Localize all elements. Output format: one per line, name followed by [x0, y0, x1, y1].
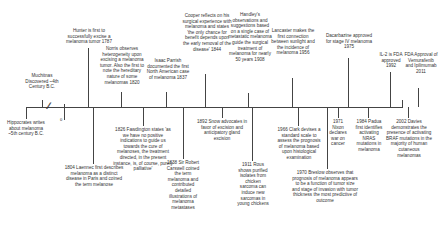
event-stem-norris — [121, 92, 122, 107]
event-label-lancaster: Lancaster makes the first connection bet… — [270, 28, 316, 56]
event-label-muchitnas: Muchitnas Discovered ~4th Century B.C. — [22, 73, 62, 90]
event-label-davies: 2002 Davies demonstrates the presence of… — [386, 119, 432, 158]
zero-label: 0 — [60, 117, 62, 122]
event-label-clark: 1966 Clark devises a standard scale to a… — [276, 127, 322, 161]
timeline-axis-main — [63, 107, 403, 108]
event-label-il2: IL-2 is FDA approved 1992 — [376, 52, 406, 69]
event-stem-lancaster — [292, 78, 293, 107]
event-label-padua: 1984 Padua first identifies activating N… — [355, 119, 383, 153]
event-stem-handley — [248, 93, 249, 107]
event-label-fda2011: FDA Approval of Vemurafenib and Ipilimum… — [404, 52, 438, 74]
event-label-snow: 1892 Snow advocates in favor of excision… — [196, 119, 248, 141]
event-stem-cooper — [205, 74, 206, 107]
event-stem-muchitnas — [42, 100, 43, 107]
event-stem-davies — [408, 107, 409, 118]
event-label-parrish: Isaac Parrish documented the first North… — [146, 58, 190, 80]
event-stem-hippocrates — [26, 107, 27, 119]
zero-tick — [64, 104, 65, 120]
event-label-breslow: 1970 Breslow observes that prognosis of … — [292, 170, 358, 204]
event-stem-nixon — [338, 107, 339, 118]
event-stem-hunter — [88, 48, 89, 107]
event-label-dacarbazine: Dacarbazine approved for stage IV melano… — [324, 33, 374, 50]
event-label-fawdington: 1826 Fawdington states 'as we have no po… — [112, 127, 174, 172]
event-stem-parrish — [166, 92, 167, 107]
event-stem-fda2011 — [418, 88, 419, 107]
event-stem-snow — [222, 107, 223, 118]
event-label-nixon: 1971 Nixon declares war on cancer — [328, 119, 348, 147]
event-label-hippocrates: Hippocrates writes about melanoma ~5th c… — [6, 120, 46, 137]
event-label-handley: Handley's observations and suggestions b… — [228, 12, 272, 62]
event-stem-carswell — [183, 107, 184, 159]
event-label-cooper: Cooper reflects on his surgical experien… — [182, 13, 232, 52]
axis-right-end — [402, 100, 403, 108]
event-stem-laennec — [93, 107, 94, 164]
event-label-norris: Norris observes heterogeneity upon excis… — [96, 46, 148, 85]
event-stem-rous — [252, 107, 253, 161]
event-label-carswell: 1838 Sir Robert Carswell coined the term… — [166, 160, 200, 210]
event-stem-clark — [298, 107, 299, 126]
event-label-hunter: Hunter is first to successfully excise a… — [62, 28, 116, 45]
event-stem-il2 — [390, 72, 391, 107]
event-label-rous: 1911 Rous shows purified isolates from c… — [236, 162, 270, 207]
event-stem-fawdington — [143, 107, 144, 126]
event-stem-dacarbazine — [348, 58, 349, 107]
axis-break-icon: // — [45, 101, 50, 111]
event-stem-padua — [368, 107, 369, 118]
